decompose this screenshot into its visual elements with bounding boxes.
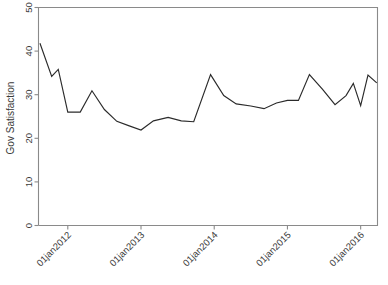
- y-tick-label: 10: [23, 177, 34, 188]
- y-tick-label: 30: [23, 89, 34, 100]
- plot-border: [39, 8, 378, 226]
- y-tick-label: 40: [23, 46, 34, 57]
- y-axis: 01020304050: [23, 2, 39, 228]
- x-tick-label: 01jan2013: [107, 229, 146, 268]
- series-gov-satisfaction: [40, 43, 377, 130]
- plot-frame: [39, 8, 378, 226]
- y-tick-label: 20: [23, 133, 34, 144]
- x-tick-label: 01jan2016: [327, 229, 366, 268]
- x-tick-label: 01jan2012: [34, 229, 73, 268]
- x-tick-label: 01jan2014: [180, 229, 219, 268]
- x-axis: 01jan201201jan201301jan201401jan201501ja…: [34, 226, 366, 269]
- series-group: [40, 43, 377, 130]
- chart-container: 01020304050 01jan201201jan201301jan20140…: [0, 0, 388, 285]
- line-chart: 01020304050 01jan201201jan201301jan20140…: [0, 0, 388, 285]
- y-tick-label: 50: [23, 2, 34, 13]
- y-axis-title: Gov Satisfaction: [5, 82, 16, 155]
- y-tick-label: 0: [23, 223, 34, 228]
- x-tick-label: 01jan2015: [254, 229, 293, 268]
- y-axis-title-group: Gov Satisfaction: [5, 82, 16, 155]
